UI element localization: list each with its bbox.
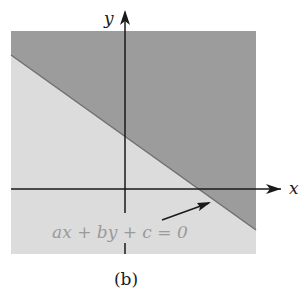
figure-caption: (b) — [114, 269, 138, 289]
y-axis-label: y — [103, 8, 114, 28]
half-plane-diagram: x y ax + by + c = 0 (b) — [0, 0, 301, 299]
x-axis-label: x — [289, 178, 299, 198]
boundary-equation-label: ax + by + c = 0 — [52, 222, 188, 242]
